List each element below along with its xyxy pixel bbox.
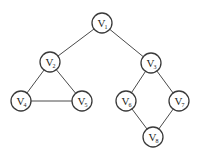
node-v2: V2 <box>40 52 60 72</box>
node-subscript: 4 <box>24 102 27 108</box>
node-subscript: 8 <box>156 138 159 144</box>
edges-layer <box>21 23 179 137</box>
graph-diagram: V1V2V3V4V5V6V7V8 <box>0 0 204 165</box>
node-v5: V5 <box>72 91 92 111</box>
node-subscript: 3 <box>154 64 157 70</box>
node-v8: V8 <box>143 127 163 147</box>
node-v6: V6 <box>116 91 136 111</box>
node-subscript: 1 <box>105 24 108 30</box>
node-v4: V4 <box>11 91 31 111</box>
node-v7: V7 <box>169 91 189 111</box>
node-v1: V1 <box>92 13 112 33</box>
node-v3: V3 <box>141 53 161 73</box>
node-subscript: 6 <box>129 102 132 108</box>
node-subscript: 2 <box>53 63 56 69</box>
node-subscript: 5 <box>85 102 88 108</box>
node-subscript: 7 <box>182 102 185 108</box>
nodes-layer: V1V2V3V4V5V6V7V8 <box>11 13 189 147</box>
